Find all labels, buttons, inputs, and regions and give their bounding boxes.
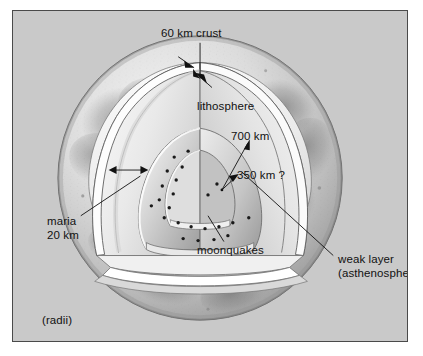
label-weak-layer-line1: weak layer [338, 252, 408, 266]
label-lithosphere: lithosphere [197, 100, 254, 113]
label-radii: (radii) [42, 314, 72, 327]
label-maria-line2: 20 km [47, 228, 79, 242]
label-moonquakes: moonquakes [197, 244, 264, 257]
moon-interior-figure: 60 km crust lithosphere 700 km 350 km ? … [12, 10, 408, 342]
label-depth-350: 350 km ? [237, 169, 285, 182]
moon-cutaway-illustration [13, 11, 407, 341]
label-weak-layer: weak layer (asthenosphere) [338, 252, 408, 280]
label-maria-line1: maria [47, 214, 79, 228]
label-maria: maria 20 km [47, 214, 79, 242]
label-crust: 60 km crust [161, 27, 222, 40]
label-weak-layer-line2: (asthenosphere) [338, 266, 408, 280]
label-depth-700: 700 km [231, 130, 269, 143]
